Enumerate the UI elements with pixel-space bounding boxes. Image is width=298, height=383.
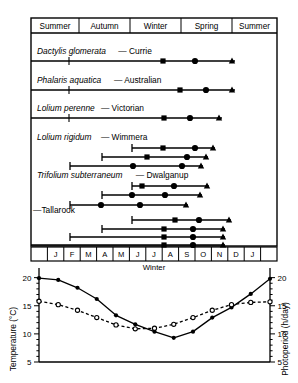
- point-temperature-M: [114, 313, 118, 317]
- point-photoperiod-J: [133, 327, 137, 331]
- point-photoperiod-S: [191, 315, 195, 319]
- point-temperature-J: [133, 322, 137, 326]
- point-temperature-S: [191, 330, 195, 334]
- marker-circle-lolium-rigidum-2-0: [130, 163, 136, 169]
- point-photoperiod-J: [37, 299, 41, 303]
- month-label-10: O: [200, 250, 206, 259]
- marker-circle-lolium-rigidum-2-1: [179, 163, 185, 169]
- figure-canvas: SummerAutumnWinterSpringSummerDactylis g…: [0, 0, 298, 383]
- point-temperature-A: [172, 336, 176, 340]
- month-label-5: M: [118, 250, 124, 259]
- point-temperature-J: [37, 276, 41, 280]
- season-label-spring-3: Spring: [195, 22, 219, 31]
- season-label-summer-0: Summer: [40, 22, 71, 31]
- month-label-6: J: [136, 250, 140, 259]
- marker-square-tallarook-1-0: [161, 226, 166, 231]
- marker-circle-trifolium-subterraneum-1-1: [162, 192, 168, 198]
- marker-circle-trifolium-subterraneum-0-1: [171, 183, 177, 189]
- cultivar-name-phalaris-aquatica: — Australian: [114, 75, 162, 85]
- marker-square-tallarook-2-0: [161, 234, 166, 239]
- marker-square-lolium-rigidum-1-0: [144, 154, 149, 159]
- month-label-9: S: [184, 250, 189, 259]
- point-photoperiod-M: [114, 323, 118, 327]
- season-label-autumn-1: Autumn: [90, 22, 119, 31]
- point-temperature-A: [95, 297, 99, 301]
- figure-root: SummerAutumnWinterSpringSummerDactylis g…: [0, 0, 298, 383]
- marker-circle-tallarook-2-1: [190, 234, 196, 240]
- month-label-2: F: [70, 250, 75, 259]
- cultivar-name-lolium-rigidum: — Wimmera: [101, 132, 148, 142]
- marker-square-tallarook-0-0: [172, 217, 177, 222]
- marker-circle-dactylis-glomerata-0-2: [192, 58, 198, 64]
- point-photoperiod-F: [56, 303, 60, 307]
- month-label-13: J: [251, 250, 255, 259]
- species-name-lolium-rigidum: Lolium rigidum: [37, 132, 91, 142]
- month-label-12: D: [233, 250, 239, 259]
- point-temperature-J: [268, 277, 272, 281]
- winter-season-label: Winter: [143, 263, 166, 272]
- species-name-lolium-perenne: Lolium perenne: [37, 103, 95, 113]
- species-name-dactylis-glomerata: Dactylis glomerata: [37, 46, 106, 56]
- tick-label-left-15: 15: [23, 302, 32, 311]
- point-photoperiod-J: [268, 300, 272, 304]
- species-name-trifolium-subterraneum: Trifolium subterraneum: [37, 170, 123, 180]
- point-temperature-D: [249, 292, 253, 296]
- point-photoperiod-A: [95, 315, 99, 319]
- month-label-4: A: [102, 250, 108, 259]
- marker-square-phalaris-aquatica-0-1: [177, 87, 182, 92]
- season-label-winter-2: Winter: [144, 22, 168, 31]
- marker-square-dactylis-glomerata-0-1: [160, 58, 165, 63]
- marker-circle-trifolium-subterraneum-2-0: [98, 202, 104, 208]
- marker-square-lolium-perenne-0-1: [161, 115, 166, 120]
- marker-circle-lolium-rigidum-1-1: [184, 154, 190, 160]
- tick-label-left-5: 5: [27, 358, 32, 367]
- point-photoperiod-A: [172, 322, 176, 326]
- tick-label-right-20: 20: [278, 274, 287, 283]
- marker-circle-trifolium-subterraneum-1-0: [129, 192, 135, 198]
- cultivar-name-tallarook: —Tallarook: [33, 205, 76, 215]
- tick-label-left-20: 20: [23, 274, 32, 283]
- point-photoperiod-M: [75, 308, 79, 312]
- cultivar-name-lolium-perenne: — Victorian: [101, 103, 144, 113]
- month-label-1: J: [54, 250, 58, 259]
- marker-square-trifolium-subterraneum-0-0: [139, 183, 144, 188]
- month-label-11: N: [217, 250, 222, 259]
- point-photoperiod-D: [249, 300, 253, 304]
- marker-circle-tallarook-1-1: [190, 226, 196, 232]
- month-label-3: M: [85, 250, 91, 259]
- marker-circle-phalaris-aquatica-0-2: [203, 87, 209, 93]
- marker-square-lolium-rigidum-0-0: [160, 145, 165, 150]
- cultivar-name-trifolium-subterraneum: — Dwalganup: [136, 170, 189, 180]
- point-temperature-O: [210, 315, 214, 319]
- point-photoperiod-J: [152, 326, 156, 330]
- month-label-7: J: [152, 250, 156, 259]
- tick-label-left-10: 10: [23, 330, 32, 339]
- y-axis-label-photoperiod: Photoperiod (h/day): [280, 302, 290, 376]
- point-photoperiod-N: [229, 303, 233, 307]
- point-photoperiod-O: [210, 308, 214, 312]
- y-axis-label-temperature: Temperature (°C): [8, 307, 18, 372]
- month-label-8: A: [168, 250, 174, 259]
- season-label-summer-4: Summer: [239, 22, 270, 31]
- marker-circle-trifolium-subterraneum-2-1: [137, 202, 143, 208]
- species-name-phalaris-aquatica: Phalaris aquatica: [37, 75, 102, 85]
- marker-circle-tallarook-0-1: [196, 217, 202, 223]
- marker-circle-lolium-rigidum-0-1: [192, 145, 198, 151]
- point-temperature-M: [75, 286, 79, 290]
- cultivar-name-dactylis-glomerata: — Currie: [118, 46, 152, 56]
- point-temperature-F: [56, 278, 60, 282]
- marker-circle-lolium-perenne-0-2: [187, 115, 193, 121]
